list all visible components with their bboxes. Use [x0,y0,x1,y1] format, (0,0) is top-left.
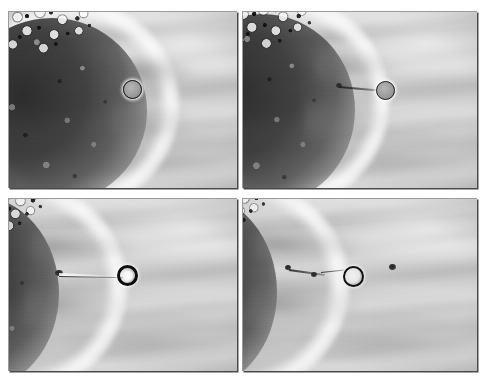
shadow-wedge [315,46,455,84]
micrograph-panel-bottom-left [8,198,237,371]
shadow-wedge-lower [305,96,455,144]
shadow-wedge [127,52,237,92]
bead [123,80,142,99]
debris-speck-right [389,264,396,270]
panel-grid [0,0,488,389]
shadow-wedge [257,227,437,263]
bead [117,265,138,286]
shadow-wedge-lower [251,279,441,331]
shadow-wedge-lower [25,281,205,331]
bead [343,266,364,287]
micrograph-figure [0,0,488,389]
micrograph-panel-bottom-right [242,198,477,371]
shadow-wedge [33,229,203,265]
micrograph-panel-top-left [8,11,237,188]
bead [376,81,395,100]
shadow-wedge-lower [113,98,237,144]
corona-dark-specks [8,11,123,66]
micrograph-panel-top-right [242,11,477,188]
